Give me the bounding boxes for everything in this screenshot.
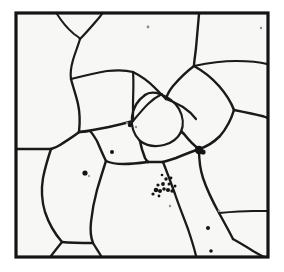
particle-center-cluster-4: [166, 188, 170, 192]
particle-center-cluster-13: [151, 192, 154, 195]
particle-center-cluster-2: [158, 189, 162, 193]
particle-center-cluster-8: [168, 183, 171, 186]
gb-lower-left-to-junction: [79, 131, 90, 132]
particle-blob-right-tail: [200, 149, 205, 154]
mark-left-lower: [88, 175, 90, 177]
gb-bottom-junction-left: [62, 242, 93, 243]
particle-center-cluster-3: [162, 187, 166, 191]
particle-bottom-edge: [209, 249, 213, 253]
particle-center-cluster-10: [170, 177, 173, 180]
mark-top-right: [260, 27, 262, 29]
particle-center-cluster-12: [174, 185, 177, 188]
particle-center-cluster-7: [161, 182, 165, 186]
grain-boundary-micrograph: [0, 0, 284, 272]
particle-center-cluster-6: [156, 183, 159, 186]
micrograph-interior: [16, 13, 268, 257]
mark-bottom-center: [169, 205, 171, 207]
mark-center-upper: [126, 122, 129, 125]
particle-left-mid: [82, 170, 87, 175]
mark-top-center: [147, 26, 150, 29]
particle-center-cluster-5: [170, 189, 173, 192]
mark-right-lower: [218, 210, 221, 213]
micrograph-figure: [0, 0, 284, 272]
particle-center-cluster-11: [161, 174, 164, 177]
particle-center-cluster-14: [158, 195, 161, 198]
particle-center-left: [128, 123, 132, 127]
particle-center-cluster-9: [164, 177, 167, 180]
mark-center-mid: [135, 126, 137, 128]
particle-lower-right: [206, 226, 210, 230]
particle-left-upper: [110, 150, 114, 154]
particle-center-cluster-1: [154, 188, 159, 193]
